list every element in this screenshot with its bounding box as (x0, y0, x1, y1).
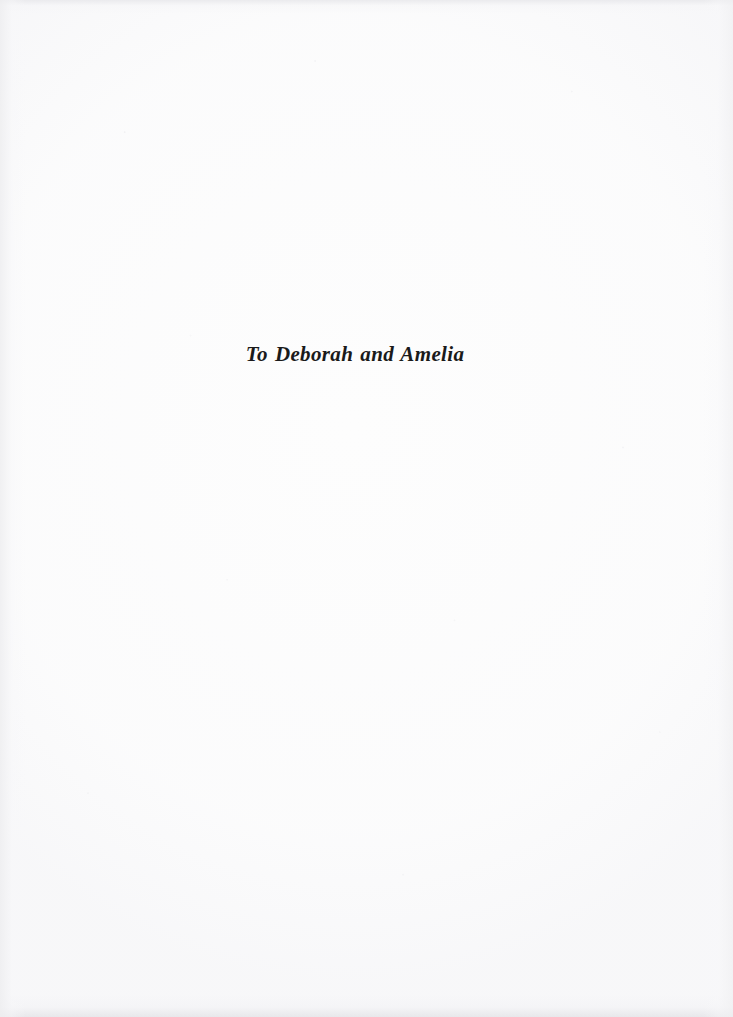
page-edge-bottom (0, 995, 733, 1017)
page-edge-left (0, 0, 26, 1017)
page-edge-top (0, 0, 733, 14)
scan-speckle-overlay (0, 0, 733, 1017)
page-edge-right (703, 0, 733, 1017)
dedication-block: To Deborah and Amelia (0, 340, 710, 368)
scanned-page: To Deborah and Amelia (0, 0, 733, 1017)
paper-tone-overlay (0, 0, 733, 1017)
dedication-text: To Deborah and Amelia (246, 340, 465, 368)
